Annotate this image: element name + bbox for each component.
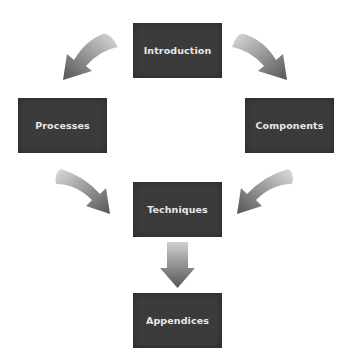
node-components: Components <box>245 98 334 153</box>
node-processes: Processes <box>18 98 107 153</box>
arrow-techniques-to-appendices <box>160 242 195 288</box>
node-label: Introduction <box>144 45 212 56</box>
node-label: Appendices <box>146 315 209 326</box>
node-techniques: Techniques <box>133 182 222 237</box>
node-label: Techniques <box>147 204 208 215</box>
arrow-processes-to-techniques <box>56 169 110 214</box>
arrow-introduction-to-components <box>232 34 287 80</box>
arrow-components-to-techniques <box>237 169 293 214</box>
arrow-introduction-to-processes <box>63 34 118 80</box>
node-label: Components <box>256 120 324 131</box>
node-appendices: Appendices <box>133 293 222 348</box>
node-label: Processes <box>35 120 90 131</box>
node-introduction: Introduction <box>133 23 222 78</box>
